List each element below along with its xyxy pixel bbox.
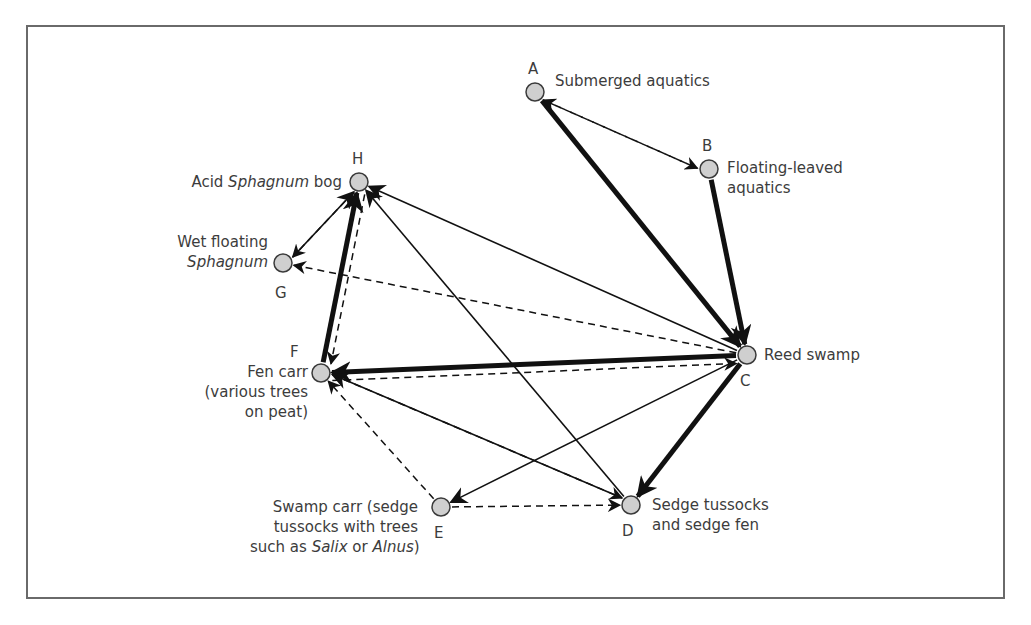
label-fen-carr: Fen carr (various trees on peat) [190, 362, 308, 422]
succession-diagram [0, 0, 1031, 625]
edge-h-to-f [331, 194, 365, 363]
label-floating-leaved-aquatics: Floating-leaved aquatics [727, 158, 843, 198]
label-acid-sphagnum-bog: Acid Sphagnum bog [150, 172, 342, 192]
label-line: Floating-leaved [727, 158, 843, 178]
node-a-circle [526, 83, 544, 101]
node-letter-h: H [352, 150, 363, 168]
node-letter-g: G [275, 284, 287, 302]
node-f-circle [312, 364, 330, 382]
label-line: aquatics [727, 178, 843, 198]
label-text: ) [414, 538, 420, 556]
label-text-sphagnum: Sphagnum [228, 173, 309, 191]
node-letter-e: E [434, 524, 443, 542]
node-d-circle [622, 496, 640, 514]
label-line: Wet floating [150, 232, 268, 252]
label-line: Sedge tussocks [652, 495, 769, 515]
node-h-circle [350, 173, 368, 191]
label-genus-salix: Salix [312, 538, 348, 556]
node-letter-b: B [702, 137, 712, 155]
label-line: (various trees [190, 382, 308, 402]
label-text: bog [309, 173, 342, 191]
node-b-circle [700, 160, 718, 178]
label-wet-floating-sphagnum: Wet floating Sphagnum [150, 232, 268, 272]
label-reed-swamp: Reed swamp [764, 345, 860, 365]
edge-e-to-f [328, 381, 433, 499]
edge-c-to-e [451, 360, 737, 502]
label-line: such as Salix or Alnus) [250, 537, 418, 557]
label-line: on peat) [190, 402, 308, 422]
edge-d-to-h [366, 190, 624, 496]
label-swamp-carr: Swamp carr (sedge tussocks with trees su… [250, 497, 418, 557]
label-line: and sedge fen [652, 515, 769, 535]
node-letter-c: C [740, 372, 750, 390]
edge-c-to-h [369, 186, 737, 350]
label-submerged-aquatics: Submerged aquatics [555, 71, 710, 91]
node-letter-f: F [290, 343, 299, 361]
nodes-layer [274, 83, 756, 516]
label-line: Sphagnum [150, 252, 268, 272]
node-g-circle [274, 254, 292, 272]
node-letter-a: A [528, 60, 538, 78]
label-text: or [348, 538, 373, 556]
label-line: tussocks with trees [250, 517, 418, 537]
edge-c-to-f [332, 355, 736, 372]
edge-c-to-g [294, 265, 736, 353]
label-sedge-tussocks: Sedge tussocks and sedge fen [652, 495, 769, 535]
node-e-circle [432, 498, 450, 516]
edge-e-to-d [452, 505, 620, 507]
label-line: Fen carr [190, 362, 308, 382]
label-text: Acid [191, 173, 228, 191]
label-line: Swamp carr (sedge [250, 497, 418, 517]
label-genus-alnus: Alnus [372, 538, 413, 556]
node-c-circle [738, 346, 756, 364]
node-letter-d: D [622, 522, 634, 540]
label-text: such as [250, 538, 312, 556]
